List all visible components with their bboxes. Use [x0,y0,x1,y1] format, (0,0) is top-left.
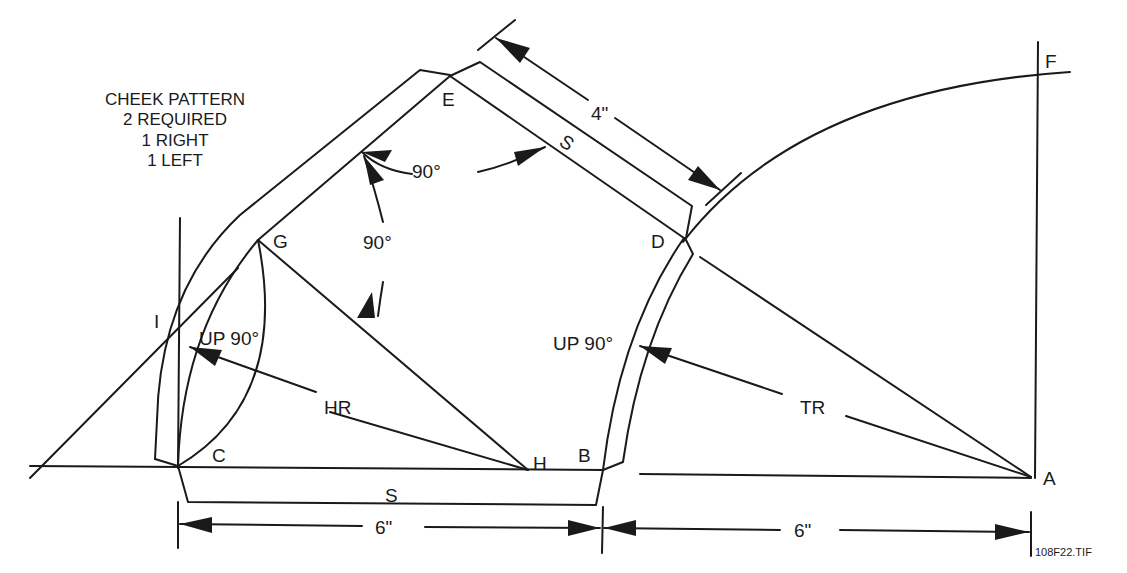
lens-arc [178,240,265,466]
dimension-bottom-left-label: 6" [375,517,392,538]
title-line-4: 1 LEFT [147,151,203,170]
title-line-1: CHEEK PATTERN [105,90,245,109]
point-label-d: D [651,231,665,252]
angle-left-label: 90° [363,232,392,253]
dimension-bottom-right-label: 6" [794,520,811,541]
up-90-left-label: UP 90° [199,328,259,349]
dimension-top-label: 4" [591,103,608,124]
angle-top-label: 90° [412,161,441,182]
dimension-top [478,20,741,205]
point-label-a: A [1043,468,1056,489]
title-line-2: 2 REQUIRED [123,110,227,129]
title-block: CHEEK PATTERN 2 REQUIRED 1 RIGHT 1 LEFT [105,90,245,170]
hr-label: HR [324,397,351,418]
annotations: UP 90° UP 90° HR TR S S 90° 90° [199,130,825,506]
tr-label: TR [800,397,825,418]
cheek-pattern-diagram: CHEEK PATTERN 2 REQUIRED 1 RIGHT 1 LEFT … [0,0,1127,573]
point-label-c: C [212,445,226,466]
point-label-h: H [533,453,547,474]
up-90-right-label: UP 90° [553,333,613,354]
point-label-e: E [442,89,455,110]
dimension-bottom [178,502,1031,556]
point-label-i: I [154,311,159,332]
point-label-f: F [1045,51,1057,72]
point-label-b: B [578,445,591,466]
file-id-label: 108F22.TIF [1035,546,1092,558]
title-line-3: 1 RIGHT [141,131,208,150]
radius-lines [190,240,1031,477]
point-label-g: G [273,231,288,252]
seam-bottom-label: S [385,485,398,506]
